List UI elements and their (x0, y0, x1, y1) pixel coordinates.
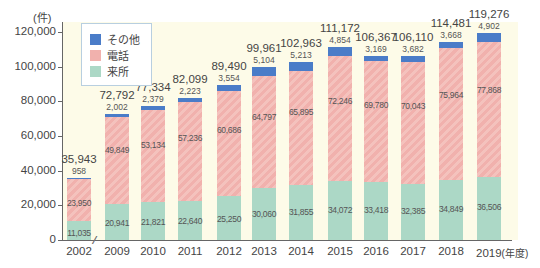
bar-2014: 65,89531,855 (289, 62, 313, 240)
phone-value-label: 23,950 (57, 198, 101, 208)
segment-visit: 31,855 (289, 185, 313, 240)
segment-phone: 60,686 (217, 91, 241, 196)
other-value-label: 3,682 (393, 44, 433, 54)
x-tick-year: 2013 (251, 245, 277, 257)
bar-2019: 77,86836,506 (477, 33, 501, 240)
segment-visit: 36,506 (477, 177, 501, 240)
legend-item-visit: 来所 (90, 64, 129, 78)
x-tick-label: 2019(年度) (476, 245, 540, 260)
x-tick-year: 2002 (66, 245, 92, 257)
segment-phone: 53,134 (141, 110, 165, 202)
x-tick-year: 2012 (216, 245, 242, 257)
other-value-label: 2,379 (133, 94, 173, 104)
segment-phone: 49,849 (105, 117, 129, 203)
x-axis-line (62, 240, 512, 241)
other-value-label: 2,002 (97, 102, 137, 112)
bar-2017: 70,04332,385 (401, 56, 425, 240)
segment-visit: 22,640 (178, 201, 202, 240)
other-value-label: 2,223 (170, 86, 210, 96)
segment-visit: 21,821 (141, 202, 165, 240)
legend: その他 電話 来所 (81, 23, 152, 86)
y-tick (58, 205, 62, 206)
legend-label-other: その他 (107, 31, 140, 47)
phone-value-label: 65,895 (279, 107, 323, 117)
bar-2016: 69,78033,418 (364, 56, 388, 240)
y-axis-line (62, 22, 63, 241)
y-tick (58, 101, 62, 102)
segment-other (477, 33, 501, 41)
legend-swatch-phone (90, 50, 101, 61)
other-value-label: 3,668 (431, 30, 471, 40)
segment-phone: 72,246 (328, 56, 352, 181)
x-tick-year: 2019 (476, 247, 502, 259)
bar-2002: 23,95011,035 (67, 178, 91, 240)
y-tick (58, 171, 62, 172)
x-tick-year: 2018 (438, 245, 464, 257)
segment-visit: 34,072 (328, 181, 352, 240)
other-value-label: 5,104 (244, 55, 284, 65)
total-value-label: 119,276 (459, 8, 519, 20)
phone-value-label: 60,686 (207, 125, 251, 135)
x-tick-year: 2016 (363, 245, 389, 257)
segment-phone: 64,797 (252, 76, 276, 188)
segment-visit: 25,250 (217, 196, 241, 240)
x-tick-year: 2017 (400, 245, 426, 257)
segment-phone: 69,780 (364, 61, 388, 182)
x-axis-unit: (年度) (502, 248, 529, 259)
y-tick-label: 20,000 (21, 198, 56, 210)
legend-swatch-other (90, 34, 101, 45)
y-tick-label: 0 (50, 233, 56, 245)
other-value-label: 3,169 (356, 44, 396, 54)
segment-phone: 23,950 (67, 179, 91, 221)
legend-label-visit: 来所 (107, 63, 129, 79)
legend-swatch-visit (90, 66, 101, 77)
visit-value-label: 31,855 (279, 207, 323, 217)
bar-2011: 57,23622,640 (178, 98, 202, 240)
segment-phone: 57,236 (178, 102, 202, 201)
bar-2009: 49,84920,941 (105, 114, 129, 240)
x-tick-label: 2018 (426, 245, 476, 257)
phone-value-label: 70,043 (391, 101, 435, 111)
visit-value-label: 22,640 (168, 216, 212, 226)
y-tick-label: 80,000 (21, 94, 56, 106)
x-tick-year: 2014 (288, 245, 314, 257)
y-tick (58, 32, 62, 33)
segment-visit: 33,418 (364, 182, 388, 240)
bar-2013: 64,79730,060 (252, 67, 276, 240)
y-tick (58, 67, 62, 68)
phone-value-label: 77,868 (467, 85, 511, 95)
x-tick-year: 2010 (140, 245, 166, 257)
segment-visit: 30,060 (252, 188, 276, 240)
phone-value-label: 57,236 (168, 133, 212, 143)
y-tick-label: 40,000 (21, 164, 56, 176)
y-tick-label: 60,000 (21, 129, 56, 141)
x-tick-year: 2011 (178, 245, 203, 257)
other-value-label: 4,902 (469, 21, 509, 31)
y-tick-label: 120,000 (14, 25, 56, 37)
bar-2012: 60,68625,250 (217, 85, 241, 240)
y-tick (58, 136, 62, 137)
x-tick-year: 2009 (104, 245, 130, 257)
other-value-label: 5,213 (281, 50, 321, 60)
segment-phone: 77,868 (477, 42, 501, 177)
other-value-label: 958 (59, 166, 99, 176)
segment-other (328, 47, 352, 55)
legend-label-phone: 電話 (107, 47, 129, 63)
y-tick (58, 240, 62, 241)
stacked-bar-chart: (件) 23,95011,03595835,94349,84920,9412,0… (0, 0, 540, 268)
y-axis-unit: (件) (33, 9, 51, 25)
bar-2010: 53,13421,821 (141, 106, 165, 240)
x-tick-year: 2015 (327, 245, 353, 257)
segment-visit: 32,385 (401, 184, 425, 240)
segment-phone: 70,043 (401, 62, 425, 183)
bar-2018: 75,96434,849 (439, 42, 463, 240)
segment-phone: 75,964 (439, 48, 463, 180)
segment-visit: 34,849 (439, 180, 463, 240)
segment-other (289, 62, 313, 71)
legend-item-phone: 電話 (90, 48, 129, 62)
y-tick-label: 100,000 (14, 60, 56, 72)
legend-item-other: その他 (90, 32, 140, 46)
bar-2015: 72,24634,072 (328, 47, 352, 240)
visit-value-label: 36,506 (467, 202, 511, 212)
segment-other (252, 67, 276, 76)
